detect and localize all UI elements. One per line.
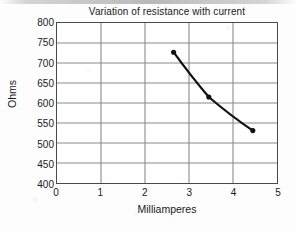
x-axis-ticks: 012345 [56, 187, 278, 201]
data-series-line [57, 23, 277, 183]
y-tick-label: 750 [20, 37, 54, 48]
x-tick-label: 5 [266, 187, 290, 198]
y-axis-ticks: 400450500550600650700750800 [16, 22, 54, 184]
x-tick-label: 3 [177, 187, 201, 198]
chart-figure: Variation of resistance with current 400… [0, 0, 296, 232]
plot-area [56, 22, 278, 184]
x-axis-label: Milliamperes [56, 203, 278, 215]
x-tick-label: 2 [133, 187, 157, 198]
y-axis-label: Ohms [6, 64, 18, 124]
y-tick-label: 600 [20, 98, 54, 109]
chart-page: Variation of resistance with current 400… [0, 0, 296, 232]
y-tick-label: 550 [20, 118, 54, 129]
y-tick-label: 450 [20, 158, 54, 169]
x-tick-label: 4 [222, 187, 246, 198]
y-tick-label: 650 [20, 77, 54, 88]
y-tick-label: 700 [20, 57, 54, 68]
y-tick-label: 500 [20, 138, 54, 149]
chart-title: Variation of resistance with current [56, 6, 278, 17]
x-tick-label: 1 [88, 187, 112, 198]
y-tick-label: 800 [20, 17, 54, 28]
x-tick-label: 0 [44, 187, 68, 198]
